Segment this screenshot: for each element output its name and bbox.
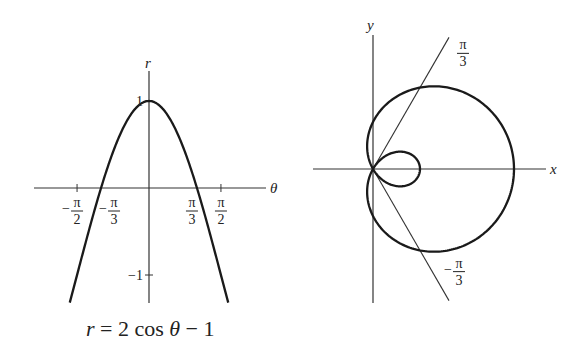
theta-axis-label: θ (270, 180, 278, 196)
svg-text:−: − (62, 201, 70, 216)
svg-text:π: π (459, 37, 466, 52)
ray-label: −π3 (444, 256, 465, 288)
svg-text:π: π (110, 195, 117, 210)
x-tick-label: π2 (215, 195, 227, 227)
svg-text:π: π (455, 256, 462, 271)
equation-caption: r = 2 cos θ − 1 (86, 316, 215, 341)
ray-label: π3 (457, 37, 469, 69)
svg-text:π: π (217, 195, 224, 210)
x-axis-label: x (549, 161, 557, 177)
cartesian-plot: r θ −π2−π3π3π21−1 r = 2 cos θ − 1 (34, 55, 278, 341)
polar-plot: x y π3−π3 (313, 17, 557, 303)
y-axis-label: y (365, 17, 374, 33)
x-tick-label: −π2 (62, 195, 83, 227)
svg-text:3: 3 (111, 212, 118, 227)
r-axis-label: r (145, 55, 151, 71)
x-tick-label: −π3 (99, 195, 120, 227)
svg-text:3: 3 (459, 54, 466, 69)
svg-text:2: 2 (217, 212, 224, 227)
svg-text:π: π (188, 195, 195, 210)
svg-text:−: − (444, 262, 452, 277)
y-tick-label: 1 (136, 94, 143, 109)
svg-text:3: 3 (188, 212, 195, 227)
y-tick-label: −1 (128, 268, 143, 283)
svg-text:2: 2 (74, 212, 81, 227)
svg-text:3: 3 (455, 273, 462, 288)
svg-text:−: − (99, 201, 107, 216)
svg-text:π: π (74, 195, 81, 210)
figure: r θ −π2−π3π3π21−1 r = 2 cos θ − 1 x y π3… (0, 0, 586, 355)
x-tick-label: π3 (186, 195, 198, 227)
